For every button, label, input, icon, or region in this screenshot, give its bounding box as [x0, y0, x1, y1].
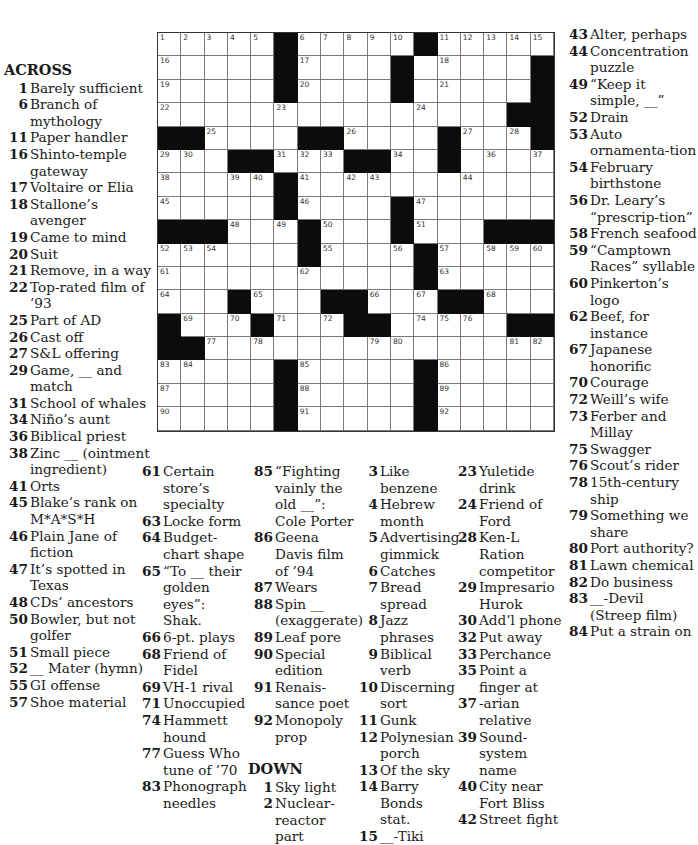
grid-cell[interactable]: 31 — [274, 150, 297, 173]
clue-item[interactable]: 49“Keep it simple, __” — [566, 76, 698, 109]
grid-cell[interactable] — [391, 290, 414, 313]
clue-item[interactable]: 43Alter, perhaps — [566, 26, 698, 43]
grid-cell[interactable]: 30 — [181, 150, 204, 173]
grid-cell[interactable] — [414, 173, 437, 196]
grid-cell[interactable]: 37 — [531, 150, 554, 173]
grid-cell[interactable]: 77 — [205, 337, 228, 360]
grid-cell[interactable] — [181, 173, 204, 196]
grid-cell[interactable] — [391, 173, 414, 196]
clue-item[interactable]: 74Hammett hound — [136, 712, 248, 745]
clue-item[interactable]: 5Advertising gimmick — [353, 529, 453, 562]
grid-cell[interactable] — [461, 197, 484, 220]
clue-item[interactable]: 87Wears — [248, 579, 356, 596]
grid-cell[interactable] — [274, 127, 297, 150]
grid-cell[interactable]: 25 — [205, 127, 228, 150]
grid-cell[interactable] — [251, 127, 274, 150]
clue-item[interactable]: 17Voltaire or Elia — [4, 179, 152, 196]
grid-cell[interactable]: 90 — [158, 407, 181, 430]
clue-item[interactable]: 80Port authority? — [566, 540, 698, 557]
clue-item[interactable]: 79Something we share — [566, 507, 698, 540]
grid-cell[interactable]: 50 — [321, 220, 344, 243]
grid-cell[interactable] — [205, 150, 228, 173]
grid-cell[interactable] — [391, 384, 414, 407]
clue-item[interactable]: 42Street fight — [452, 811, 562, 828]
grid-cell[interactable]: 64 — [158, 290, 181, 313]
grid-cell[interactable]: 44 — [461, 173, 484, 196]
clue-item[interactable]: 88Spin __ (exaggerate) — [248, 596, 356, 629]
grid-cell[interactable]: 76 — [461, 314, 484, 337]
grid-cell[interactable] — [344, 384, 367, 407]
grid-cell[interactable]: 19 — [158, 80, 181, 103]
grid-cell[interactable] — [414, 150, 437, 173]
grid-cell[interactable] — [368, 56, 391, 79]
grid-cell[interactable]: 28 — [507, 127, 530, 150]
clue-item[interactable]: 69VH-1 rival — [136, 679, 248, 696]
grid-cell[interactable]: 13 — [484, 33, 507, 56]
grid-cell[interactable]: 17 — [298, 56, 321, 79]
grid-cell[interactable]: 5 — [251, 33, 274, 56]
grid-cell[interactable] — [298, 290, 321, 313]
grid-cell[interactable]: 53 — [181, 244, 204, 267]
grid-cell[interactable] — [321, 80, 344, 103]
grid-cell[interactable] — [438, 337, 461, 360]
clue-item[interactable]: 1Sky light — [248, 779, 356, 796]
grid-cell[interactable] — [531, 407, 554, 430]
grid-cell[interactable] — [531, 290, 554, 313]
grid-cell[interactable]: 71 — [274, 314, 297, 337]
grid-cell[interactable] — [484, 267, 507, 290]
grid-cell[interactable]: 68 — [484, 290, 507, 313]
grid-cell[interactable] — [438, 197, 461, 220]
clue-item[interactable]: 68Friend of Fidel — [136, 646, 248, 679]
clue-item[interactable]: 73Ferber and Millay — [566, 408, 698, 441]
grid-cell[interactable] — [205, 173, 228, 196]
grid-cell[interactable] — [274, 267, 297, 290]
grid-cell[interactable] — [251, 197, 274, 220]
clue-item[interactable]: 10Discerning sort — [353, 679, 453, 712]
grid-cell[interactable]: 20 — [298, 80, 321, 103]
grid-cell[interactable] — [205, 267, 228, 290]
grid-cell[interactable]: 65 — [251, 290, 274, 313]
clue-item[interactable]: 25Part of AD — [4, 312, 152, 329]
grid-cell[interactable] — [461, 337, 484, 360]
grid-cell[interactable]: 38 — [158, 173, 181, 196]
grid-cell[interactable] — [484, 384, 507, 407]
grid-cell[interactable] — [414, 80, 437, 103]
grid-cell[interactable] — [461, 244, 484, 267]
grid-cell[interactable] — [205, 197, 228, 220]
grid-cell[interactable]: 46 — [298, 197, 321, 220]
grid-cell[interactable]: 47 — [414, 197, 437, 220]
grid-cell[interactable] — [251, 384, 274, 407]
grid-cell[interactable] — [228, 267, 251, 290]
grid-cell[interactable] — [438, 103, 461, 126]
clue-item[interactable]: 39Sound-system name — [452, 729, 562, 779]
clue-item[interactable]: 29Game, __ and match — [4, 362, 152, 395]
grid-cell[interactable] — [391, 103, 414, 126]
grid-cell[interactable] — [507, 56, 530, 79]
clue-item[interactable]: 90Special edition — [248, 646, 356, 679]
grid-cell[interactable] — [228, 56, 251, 79]
grid-cell[interactable] — [484, 173, 507, 196]
grid-cell[interactable] — [251, 103, 274, 126]
clue-item[interactable]: 2Nuclear-reactor part — [248, 795, 356, 845]
grid-cell[interactable] — [228, 197, 251, 220]
grid-cell[interactable]: 15 — [531, 33, 554, 56]
grid-cell[interactable] — [368, 267, 391, 290]
grid-cell[interactable] — [438, 220, 461, 243]
clue-item[interactable]: 41Orts — [4, 478, 152, 495]
grid-cell[interactable] — [484, 56, 507, 79]
grid-cell[interactable] — [321, 384, 344, 407]
clue-item[interactable]: 64Budget-chart shape — [136, 529, 248, 562]
clue-item[interactable]: 53Auto ornamenta-tion — [566, 126, 698, 159]
grid-cell[interactable] — [344, 220, 367, 243]
grid-cell[interactable] — [368, 197, 391, 220]
clue-item[interactable]: 86Geena Davis film of ’94 — [248, 529, 356, 579]
grid-cell[interactable] — [368, 384, 391, 407]
grid-cell[interactable]: 12 — [461, 33, 484, 56]
clue-item[interactable]: 60Pinkerton’s logo — [566, 275, 698, 308]
grid-cell[interactable]: 63 — [438, 267, 461, 290]
grid-cell[interactable] — [321, 337, 344, 360]
clue-item[interactable]: 1Barely sufficient — [4, 80, 152, 97]
grid-cell[interactable] — [321, 407, 344, 430]
grid-cell[interactable]: 36 — [484, 150, 507, 173]
grid-cell[interactable]: 72 — [321, 314, 344, 337]
